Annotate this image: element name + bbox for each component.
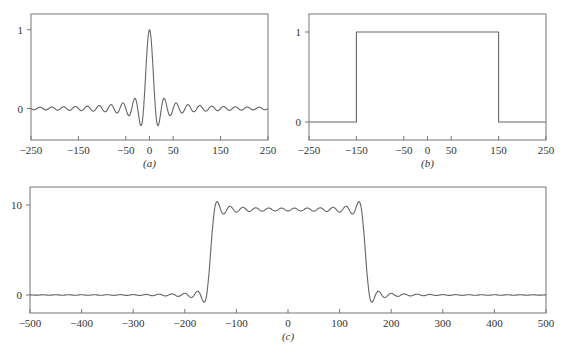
y-tick-label: 0 xyxy=(296,116,302,128)
panel-caption: (a) xyxy=(143,157,156,170)
x-tick-label: −150 xyxy=(67,144,90,156)
x-tick-label: −250 xyxy=(298,144,321,156)
x-tick-label: −300 xyxy=(122,317,145,329)
data-curve xyxy=(30,202,546,303)
axes-frame xyxy=(30,187,546,313)
data-curve xyxy=(309,32,546,122)
x-tick-label: 200 xyxy=(383,317,400,329)
y-tick-label: 0 xyxy=(18,103,24,115)
x-tick-label: 150 xyxy=(212,144,229,156)
x-tick-label: −400 xyxy=(70,317,93,329)
x-tick-label: −200 xyxy=(173,317,196,329)
axes-frame xyxy=(31,14,268,140)
x-tick-label: 250 xyxy=(538,144,555,156)
x-tick-label: 400 xyxy=(486,317,503,329)
x-tick-label: −100 xyxy=(225,317,248,329)
x-tick-label: 50 xyxy=(446,144,458,156)
panel-caption: (b) xyxy=(421,157,434,170)
figure: −250−150−5005015025001(a) −250−150−50050… xyxy=(0,0,566,354)
x-tick-label: 500 xyxy=(538,317,555,329)
y-tick-label: 10 xyxy=(11,199,23,211)
x-tick-label: 250 xyxy=(260,144,277,156)
y-tick-label: 1 xyxy=(296,26,302,38)
x-tick-label: 0 xyxy=(285,317,291,329)
x-tick-label: −250 xyxy=(20,144,43,156)
x-tick-label: 0 xyxy=(425,144,431,156)
x-tick-label: 50 xyxy=(168,144,180,156)
panel-b-rect-plot: −250−150−5005015025001(b) xyxy=(296,14,555,170)
data-curve xyxy=(31,30,268,126)
panel-a-sinc-plot: −250−150−5005015025001(a) xyxy=(18,14,277,170)
x-tick-label: −50 xyxy=(395,144,413,156)
x-tick-label: 150 xyxy=(490,144,507,156)
x-tick-label: −150 xyxy=(345,144,368,156)
panel-caption: (c) xyxy=(282,330,295,343)
x-tick-label: 100 xyxy=(331,317,348,329)
axes-frame xyxy=(309,14,546,140)
x-tick-label: 0 xyxy=(147,144,153,156)
panel-c-convolution-plot: −500−400−300−200−1000100200300400500010(… xyxy=(11,187,555,343)
y-tick-label: 1 xyxy=(18,24,24,36)
x-tick-label: −500 xyxy=(19,317,42,329)
x-tick-label: 300 xyxy=(435,317,452,329)
y-tick-label: 0 xyxy=(17,289,23,301)
x-tick-label: −50 xyxy=(117,144,135,156)
